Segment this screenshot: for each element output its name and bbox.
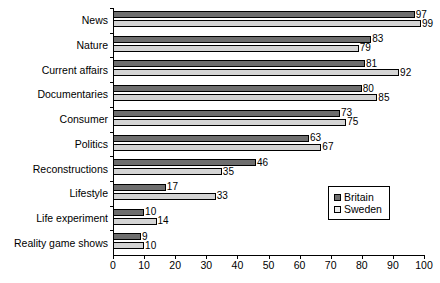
category-label: Nature: [76, 40, 108, 51]
bar-sweden: 85: [113, 94, 377, 101]
category-label: Politics: [75, 138, 108, 149]
y-axis-tick: [110, 33, 113, 34]
y-axis-tick: [110, 57, 113, 58]
bar-value-label: 92: [400, 68, 411, 78]
bar-britain: 10: [113, 209, 144, 216]
bar-sweden: 79: [113, 45, 359, 52]
y-axis-tick: [110, 181, 113, 182]
legend-label-britain: Britain: [344, 192, 374, 203]
bar-britain: 9: [113, 233, 141, 240]
bar-sweden: 67: [113, 144, 321, 151]
bar-row: News9799: [113, 8, 424, 33]
x-axis-tick-label: 70: [325, 260, 337, 271]
bar-value-label: 83: [372, 34, 383, 44]
bar-sweden: 75: [113, 119, 346, 126]
category-label: Documentaries: [37, 89, 108, 100]
bar-row: Reality game shows910: [113, 230, 424, 255]
bar-britain: 73: [113, 110, 340, 117]
x-axis-tick-label: 30: [200, 260, 212, 271]
bar-value-label: 46: [257, 158, 268, 168]
legend-label-sweden: Sweden: [344, 204, 382, 215]
category-label: Life experiment: [36, 212, 108, 223]
y-axis-tick: [110, 206, 113, 207]
y-axis-tick: [110, 156, 113, 157]
legend-item-sweden: Sweden: [334, 203, 382, 215]
x-axis-tick-label: 40: [232, 260, 244, 271]
category-label: Lifestyle: [69, 188, 108, 199]
bar-value-label: 80: [363, 84, 374, 94]
bar-britain: 97: [113, 11, 415, 18]
y-axis-tick: [110, 230, 113, 231]
category-label: Reconstructions: [33, 163, 108, 174]
bar-value-label: 17: [167, 182, 178, 192]
category-label: Current affairs: [42, 64, 108, 75]
bar-sweden: 10: [113, 242, 144, 249]
bar-row: Consumer7375: [113, 107, 424, 132]
bar-value-label: 85: [378, 93, 389, 103]
y-axis-tick: [110, 82, 113, 83]
y-axis-tick: [110, 107, 113, 108]
bar-sweden: 92: [113, 69, 399, 76]
bar-sweden: 99: [113, 20, 421, 27]
bar-value-label: 63: [310, 133, 321, 143]
bar-britain: 46: [113, 159, 256, 166]
bar-sweden: 35: [113, 168, 222, 175]
bar-value-label: 35: [223, 167, 234, 177]
chart-legend: Britain Sweden: [328, 186, 390, 220]
bar-row: Nature8379: [113, 33, 424, 58]
category-label: Reality game shows: [14, 237, 108, 248]
x-axis-tick-label: 60: [294, 260, 306, 271]
x-axis-tick-label: 100: [415, 260, 433, 271]
bar-row: Politics6367: [113, 132, 424, 157]
legend-swatch-icon-sweden: [334, 206, 341, 213]
x-axis-tick-label: 80: [356, 260, 368, 271]
bar-value-label: 10: [145, 207, 156, 217]
x-axis-tick-label: 50: [263, 260, 275, 271]
bar-row: Documentaries8085: [113, 82, 424, 107]
bar-britain: 17: [113, 184, 166, 191]
y-axis-tick: [110, 8, 113, 9]
legend-swatch-icon-britain: [334, 194, 341, 201]
bar-sweden: 33: [113, 193, 216, 200]
bar-row: Reconstructions4635: [113, 156, 424, 181]
bar-value-label: 81: [366, 59, 377, 69]
bar-chart: News9799Nature8379Current affairs8192Doc…: [0, 0, 440, 283]
x-axis-tick-label: 0: [110, 260, 116, 271]
bar-britain: 63: [113, 135, 309, 142]
legend-item-britain: Britain: [334, 191, 382, 203]
bar-britain: 83: [113, 36, 371, 43]
y-axis-tick: [110, 132, 113, 133]
bar-row: Current affairs8192: [113, 57, 424, 82]
bar-value-label: 14: [158, 216, 169, 226]
bar-value-label: 79: [360, 43, 371, 53]
bar-value-label: 99: [422, 19, 433, 29]
bar-sweden: 14: [113, 218, 157, 225]
bar-value-label: 75: [347, 117, 358, 127]
x-axis-tick-label: 20: [169, 260, 181, 271]
bar-britain: 80: [113, 85, 362, 92]
bar-value-label: 67: [322, 142, 333, 152]
x-axis-tick-label: 90: [387, 260, 399, 271]
bar-value-label: 10: [145, 241, 156, 251]
bar-britain: 81: [113, 60, 365, 67]
x-axis-tick-label: 10: [138, 260, 150, 271]
category-label: Consumer: [60, 114, 108, 125]
category-label: News: [82, 15, 108, 26]
bar-value-label: 33: [217, 191, 228, 201]
